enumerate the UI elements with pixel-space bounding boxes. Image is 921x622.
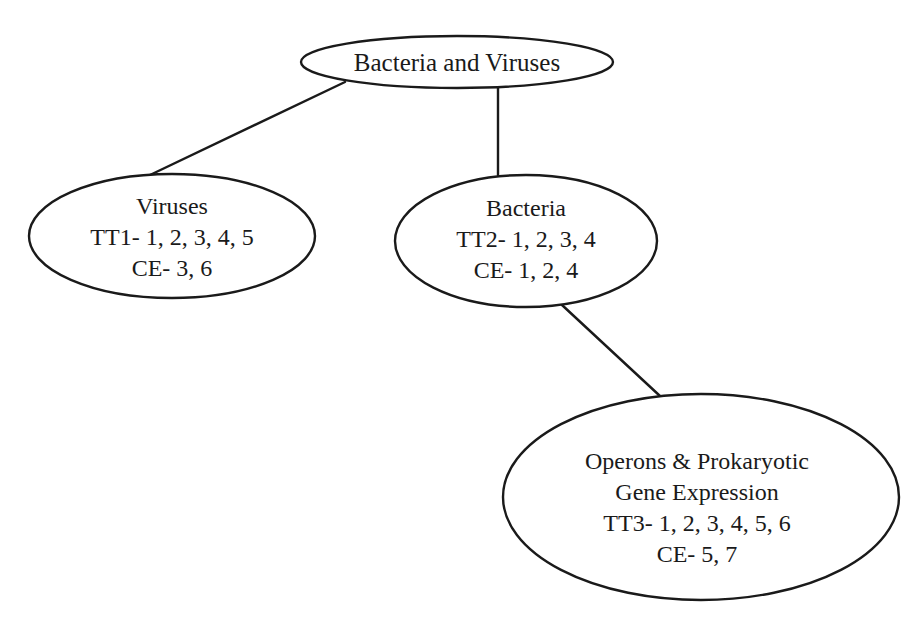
node-viruses-ce-refs: CE- 3, 6	[90, 253, 253, 284]
edge-bacteria-to-operons	[562, 305, 660, 396]
node-bacteria-tt-refs: TT2- 1, 2, 3, 4	[456, 224, 595, 255]
edge-root-to-viruses	[150, 82, 345, 175]
node-root-title: Bacteria and Viruses	[354, 47, 560, 78]
node-operons-title-line1: Operons & Prokaryotic	[585, 446, 809, 477]
node-root-label: Bacteria and Viruses	[354, 47, 560, 78]
node-operons-tt-refs: TT3- 1, 2, 3, 4, 5, 6	[585, 508, 809, 539]
node-viruses-tt-refs: TT1- 1, 2, 3, 4, 5	[90, 222, 253, 253]
node-viruses-label: Viruses TT1- 1, 2, 3, 4, 5 CE- 3, 6	[90, 191, 253, 284]
node-bacteria-ce-refs: CE- 1, 2, 4	[456, 255, 595, 286]
node-operons-title-line2: Gene Expression	[585, 477, 809, 508]
node-bacteria-title: Bacteria	[456, 193, 595, 224]
node-operons-ce-refs: CE- 5, 7	[585, 539, 809, 570]
node-viruses-title: Viruses	[90, 191, 253, 222]
node-bacteria-label: Bacteria TT2- 1, 2, 3, 4 CE- 1, 2, 4	[456, 193, 595, 286]
node-operons-label: Operons & Prokaryotic Gene Expression TT…	[585, 446, 809, 570]
